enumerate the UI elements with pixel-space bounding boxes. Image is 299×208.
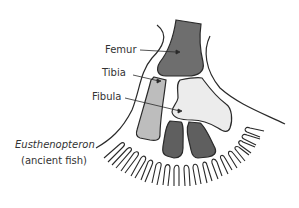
- fin-rays: [104, 127, 264, 186]
- radial-bone-left: [163, 121, 184, 158]
- label-tibia: Tibia: [102, 67, 126, 79]
- label-fibula: Fibula: [92, 91, 121, 103]
- radial-bone-right: [187, 122, 215, 158]
- caption-description: (ancient fish): [21, 155, 87, 167]
- caption-species-name: Eusthenopteron: [15, 139, 95, 151]
- tibia-bone: [136, 77, 166, 140]
- femur-bone: [158, 20, 204, 76]
- fin-skeleton-diagram: [0, 0, 299, 208]
- label-femur: Femur: [105, 44, 137, 56]
